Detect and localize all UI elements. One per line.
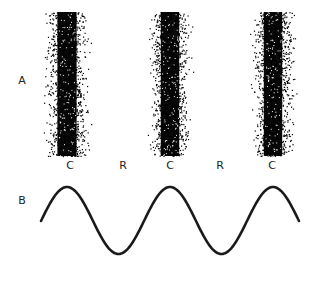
zone-label-rarefaction: R	[119, 159, 127, 172]
compression-bands	[44, 12, 298, 157]
zone-label-compression: C	[66, 159, 74, 172]
figure-canvas	[0, 0, 317, 281]
zone-label-compression: C	[268, 159, 276, 172]
zone-label-rarefaction: R	[216, 159, 224, 172]
zone-label-compression: C	[166, 159, 174, 172]
sine-wave	[41, 187, 299, 254]
panel-b-label: B	[18, 194, 26, 207]
panel-a-label: A	[18, 74, 26, 87]
